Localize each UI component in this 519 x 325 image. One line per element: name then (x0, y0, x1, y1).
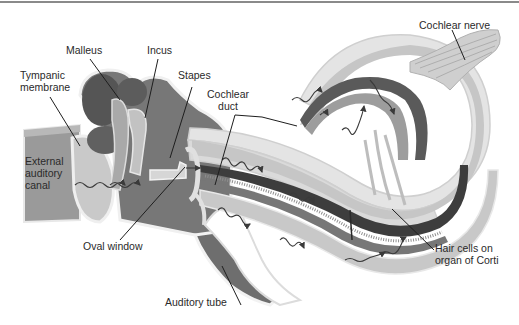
label-cochlear-nerve: Cochlear nerve (419, 19, 490, 31)
label-cochlear-duct: Cochlear duct (207, 88, 249, 112)
label-malleus: Malleus (66, 44, 102, 56)
label-oval-window: Oval window (83, 240, 143, 252)
label-hair-cells: Hair cells on organ of Corti (435, 242, 499, 266)
label-stapes: Stapes (178, 69, 211, 81)
label-external-auditory-canal: External auditory canal (25, 155, 64, 191)
label-tympanic-membrane: Tympanic membrane (20, 69, 70, 93)
label-incus: Incus (147, 44, 172, 56)
label-auditory-tube: Auditory tube (165, 296, 227, 308)
